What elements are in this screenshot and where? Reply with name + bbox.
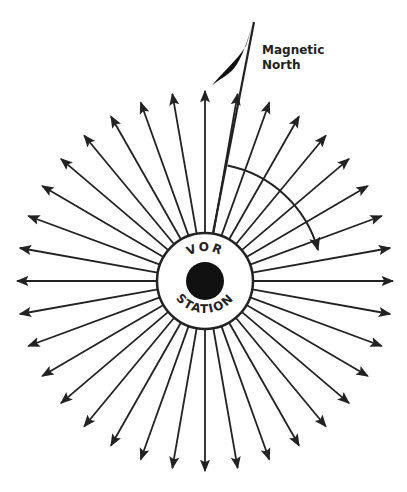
- radial-arrow: [42, 305, 163, 376]
- radial-arrow: [20, 248, 158, 273]
- radial-arrow: [111, 323, 181, 446]
- radial-arrow: [28, 297, 160, 346]
- vor-diagram: VOR STATION: [0, 0, 407, 492]
- radial-arrow: [213, 328, 237, 468]
- radial-arrow: [172, 328, 196, 468]
- north-label: North: [262, 58, 324, 73]
- radial-arrow: [141, 326, 189, 459]
- radial-arrow: [20, 289, 158, 314]
- radial-arrow: [229, 116, 299, 239]
- radial-arrow: [172, 94, 196, 234]
- radial-arrow: [141, 102, 189, 235]
- station: VOR STATION: [157, 233, 253, 329]
- radial-arrow: [111, 116, 181, 239]
- radial-arrow: [250, 297, 382, 346]
- radial-arrow: [247, 305, 368, 376]
- radial-arrow: [221, 102, 269, 235]
- radial-arrow: [229, 323, 299, 446]
- magnetic-label: Magnetic: [262, 43, 324, 58]
- radial-arrow: [252, 289, 390, 314]
- radial-arrow: [252, 248, 390, 273]
- radial-arrow: [42, 186, 163, 257]
- radial-arrow: [221, 326, 269, 459]
- radial-arrow: [28, 216, 160, 265]
- magnetic-north-label: Magnetic North: [262, 43, 324, 73]
